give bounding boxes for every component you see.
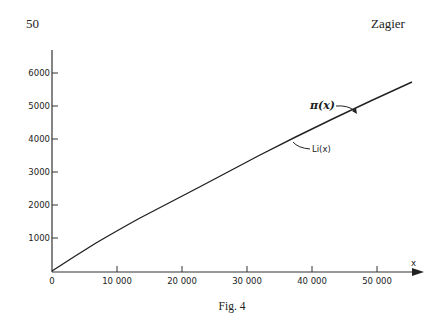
x-tick-30000: 30 000	[232, 276, 262, 286]
x-tick-20000: 20 000	[167, 276, 197, 286]
y-tick-2000: 2000	[28, 200, 50, 210]
pi-x-label: π(x)	[309, 99, 335, 112]
chart: x 1000 2000 3000 4000 5000 6000 0 10 000…	[0, 0, 445, 325]
x-axis-arrow-icon	[412, 268, 424, 276]
li-x-pointer	[293, 142, 310, 149]
x-ticks: 0 10 000 20 000 30 000 40 000 50 000	[49, 266, 392, 286]
y-tick-5000: 5000	[28, 101, 50, 111]
y-tick-1000: 1000	[28, 233, 50, 243]
x-tick-40000: 40 000	[297, 276, 327, 286]
x-tick-0: 0	[49, 276, 54, 286]
y-tick-3000: 3000	[28, 167, 50, 177]
y-tick-6000: 6000	[28, 68, 50, 78]
y-tick-4000: 4000	[28, 134, 50, 144]
pi-li-curve	[52, 82, 412, 271]
x-tick-10000: 10 000	[102, 276, 132, 286]
li-x-label: Li(x)	[312, 144, 331, 154]
x-axis-label: x	[411, 258, 416, 268]
figure-caption: Fig. 4	[219, 300, 246, 313]
x-tick-50000: 50 000	[362, 276, 392, 286]
y-ticks: 1000 2000 3000 4000 5000 6000	[28, 68, 58, 243]
